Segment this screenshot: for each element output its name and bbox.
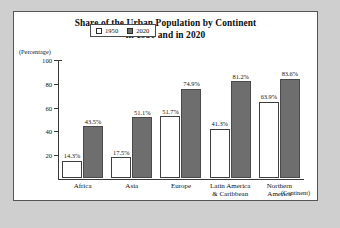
x-tick-label: NorthernAmerica: [267, 182, 292, 199]
y-axis-label: (Percentage): [19, 48, 51, 55]
x-tick-label: Asia: [125, 182, 138, 190]
legend-swatch-1950: [96, 28, 102, 34]
bar-1950-europe[interactable]: 51.7%: [160, 116, 180, 178]
bar-2020-asia[interactable]: 51.1%: [132, 117, 152, 178]
bar-value-label: 41.3%: [211, 120, 228, 127]
bar-2020-northern-america[interactable]: 83.6%: [280, 79, 300, 178]
chart-page: Share of the Urban Population by Contine…: [0, 0, 340, 228]
x-axis-line: [58, 179, 304, 180]
x-tick-label: Latin America& Caribbean: [210, 182, 250, 199]
chart-title: Share of the Urban Population by Contine…: [14, 18, 317, 41]
bar-value-label: 14.3%: [64, 152, 81, 159]
bar-1950-latin-america-caribbean[interactable]: 41.3%: [210, 129, 230, 178]
bar-2020-europe[interactable]: 74.9%: [181, 89, 201, 178]
bar-pair: 41.3%81.2%: [206, 59, 255, 178]
y-tick-label-80: 80: [45, 80, 52, 87]
y-tick-label-100: 100: [42, 57, 52, 64]
x-tick-label-line: Asia: [125, 182, 138, 190]
bar-value-label: 43.5%: [85, 118, 102, 125]
x-tick-label: Europe: [171, 182, 191, 190]
bar-pair: 51.7%74.9%: [156, 59, 205, 178]
chart-title-line-2: in 1950 and in 2020: [14, 30, 317, 42]
bar-pair: 14.3%43.5%: [58, 59, 107, 178]
legend-swatch-2020: [127, 28, 133, 34]
x-tick-label-line: & Caribbean: [210, 190, 250, 198]
bar-pair: 17.5%51.1%: [107, 59, 156, 178]
bar-group: 51.7%74.9%Europe: [156, 59, 205, 178]
x-tick-label: Africa: [74, 182, 92, 190]
bar-2020-latin-america-caribbean[interactable]: 81.2%: [231, 81, 251, 178]
y-tick-label-40: 40: [45, 128, 52, 135]
legend-item-1950: 1950: [96, 27, 118, 34]
y-tick-label-20: 20: [45, 152, 52, 159]
bar-value-label: 51.1%: [134, 109, 151, 116]
x-tick-label-line: Europe: [171, 182, 191, 190]
bar-value-label: 83.6%: [282, 70, 299, 77]
legend-item-2020: 2020: [127, 27, 149, 34]
x-tick-label-line: Africa: [74, 182, 92, 190]
bar-value-label: 17.5%: [113, 149, 130, 156]
legend-label-1950: 1950: [105, 27, 118, 34]
bar-group: 17.5%51.1%Asia: [107, 59, 156, 178]
y-tick-label-60: 60: [45, 104, 52, 111]
plot-area: 20406080100 1950 2020 14.3%43.5%Africa17…: [58, 60, 304, 179]
bar-group: 41.3%81.2%Latin America& Caribbean: [206, 59, 255, 178]
bar-group: 14.3%43.5%Africa: [58, 59, 107, 178]
legend-label-2020: 2020: [136, 27, 149, 34]
bar-2020-africa[interactable]: 43.5%: [83, 126, 103, 178]
x-tick-label-line: America: [267, 190, 292, 198]
bar-1950-asia[interactable]: 17.5%: [111, 157, 131, 178]
bar-value-label: 74.9%: [183, 80, 200, 87]
bar-value-label: 81.2%: [232, 73, 249, 80]
chart-card: Share of the Urban Population by Contine…: [13, 11, 318, 201]
bar-1950-africa[interactable]: 14.3%: [62, 161, 82, 178]
bar-1950-northern-america[interactable]: 63.9%: [259, 102, 279, 178]
bar-value-label: 51.7%: [162, 108, 179, 115]
bar-pair: 63.9%83.6%: [255, 59, 304, 178]
chart-legend: 1950 2020: [90, 24, 156, 37]
bar-group: 63.9%83.6%NorthernAmerica: [255, 59, 304, 178]
x-tick-label-line: Latin America: [210, 182, 250, 190]
bar-value-label: 63.9%: [261, 93, 278, 100]
x-tick-label-line: Northern: [267, 182, 292, 190]
